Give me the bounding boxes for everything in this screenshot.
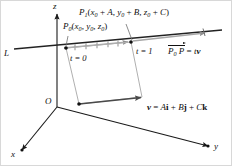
dot-P1: [129, 40, 133, 44]
eq-sign-displacement: =: [184, 46, 194, 56]
origin-label: O: [45, 97, 52, 106]
parameter-label-t1: t = 1: [136, 47, 153, 56]
p1-plus-2: +: [124, 7, 134, 17]
leader-P1: [126, 24, 132, 40]
line-in-space-figure: z y x O L P0(x0, y0, z0) P1(x0 + A, y0 +…: [0, 0, 232, 166]
axis-label-y: y: [214, 142, 218, 151]
v-bold-displacement: v: [196, 46, 200, 56]
equation-displacement: P0 P = tv: [168, 46, 200, 57]
overarrow-bar-icon: [168, 45, 185, 46]
plus-2: +: [187, 102, 197, 112]
axis-label-x: x: [11, 150, 15, 159]
point-label-P0: P0(x0, y0, z0): [63, 22, 107, 32]
axis-y: [57, 107, 208, 146]
figure-border: [1, 1, 232, 166]
line-label-L: L: [4, 49, 9, 58]
axis-x: [22, 107, 57, 150]
dot-y-axis-end: [206, 144, 209, 147]
dot-v-tail: [77, 102, 81, 106]
projection-parallelogram: [66, 42, 142, 104]
vector-v-arrow: [79, 98, 141, 105]
plus-1: +: [169, 102, 179, 112]
p0p-P-second: P: [179, 46, 185, 56]
p1-plus-3: +: [150, 7, 160, 17]
point-label-P1: P1(x0 + A, y0 + B, z0 + C): [79, 8, 169, 18]
figure-canvas: [0, 0, 232, 166]
unit-vector-k: k: [202, 102, 207, 112]
eq-sign-direction: =: [151, 102, 161, 112]
dot-x-axis-end: [20, 148, 23, 151]
equation-direction-vector: v = Ai + Bj + Ck: [147, 103, 207, 112]
axis-label-z: z: [53, 2, 57, 11]
parameter-label-t0: t = 0: [70, 54, 87, 63]
dot-P0: [64, 46, 68, 50]
p0p-overarrow-group: P0 P: [168, 46, 184, 57]
p0-paren-close: ): [104, 21, 107, 31]
overarrow-head-icon: [183, 42, 186, 44]
p1-paren-close: ): [166, 7, 169, 17]
p1-plus-1: +: [98, 7, 108, 17]
